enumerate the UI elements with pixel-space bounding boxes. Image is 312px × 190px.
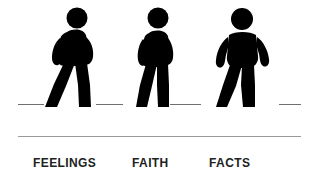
pictogram-row [0,0,312,125]
ground-dash-1 [18,104,44,105]
ground-dash-4 [279,104,301,105]
caption-feelings: FEELINGS [33,155,96,171]
dashed-ground-line [0,104,312,106]
ground-dash-2 [96,104,123,105]
walking-person-icon-facts [205,6,279,111]
horizontal-rule [18,136,301,137]
walking-person-icon-feelings [33,6,109,111]
caption-facts: FACTS [209,155,250,171]
caption-row: FEELINGS FAITH FACTS [0,155,312,175]
ground-dash-3 [170,104,201,105]
infographic-canvas: FEELINGS FAITH FACTS [0,0,312,190]
walking-person-icon-faith [124,6,190,111]
caption-faith: FAITH [132,155,169,171]
